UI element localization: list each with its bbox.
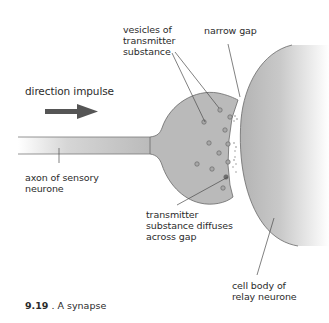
- label-transmitter-diffuses: transmitter substance diffuses across ga…: [146, 209, 233, 242]
- label-vesicles: vesicles of transmitter substance: [123, 24, 175, 57]
- axon: [18, 137, 158, 154]
- figure-title: . A synapse: [48, 300, 106, 311]
- label-cell-body: cell body of relay neurone: [232, 280, 297, 302]
- direction-arrow-icon: [45, 104, 98, 119]
- relay-cell-body: [240, 45, 329, 246]
- figure-number: 9.19: [25, 300, 48, 311]
- label-narrow-gap: narrow gap: [204, 25, 257, 36]
- figure-caption: 9.19 . A synapse: [25, 300, 106, 311]
- label-axon: axon of sensory neurone: [25, 172, 99, 194]
- label-direction-impulse: direction impulse: [25, 85, 114, 97]
- transmitter-molecules: [232, 115, 238, 173]
